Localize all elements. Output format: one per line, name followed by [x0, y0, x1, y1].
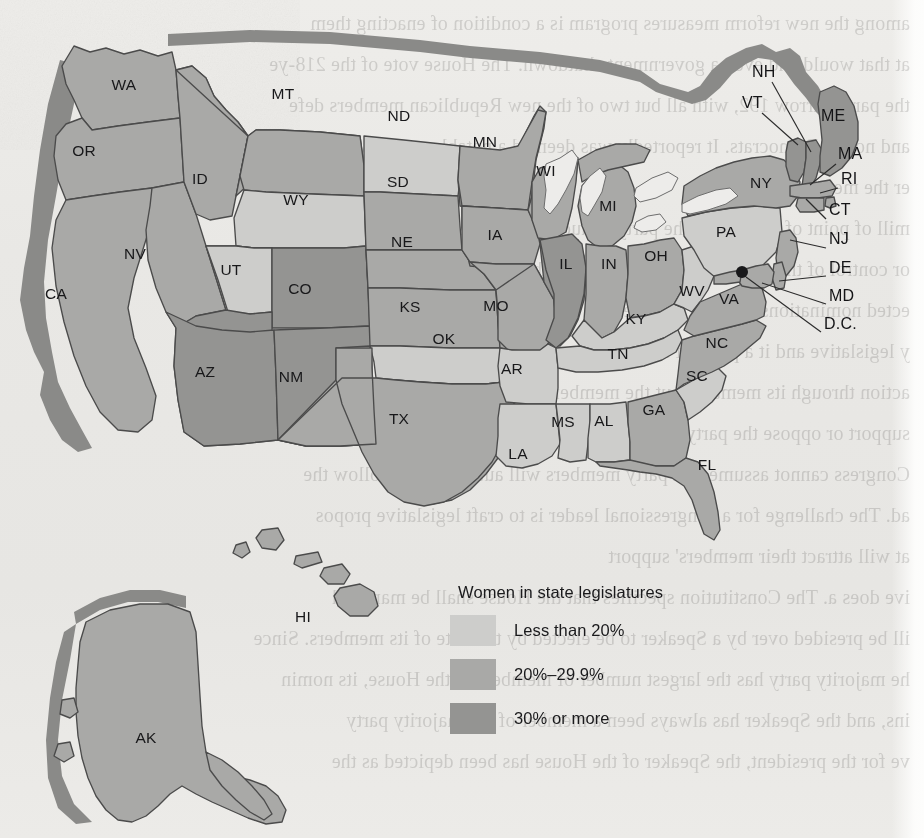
state-label-OK: OK [433, 330, 456, 347]
state-label-HI: HI [295, 608, 311, 625]
state-label-CO: CO [288, 280, 312, 297]
state-label-NM: NM [279, 368, 304, 385]
callout-label-D.C.: D.C. [824, 315, 857, 332]
hawaii-oahu [256, 528, 284, 550]
legend-row-lo: Less than 20% [450, 615, 750, 646]
state-CT [796, 198, 824, 212]
callout-label-NH: NH [752, 63, 776, 80]
state-AZ-fix [166, 312, 278, 446]
state-label-ND: ND [388, 107, 411, 124]
callout-label-RI: RI [841, 170, 857, 187]
state-label-OH: OH [644, 247, 668, 264]
state-label-WY: WY [283, 191, 308, 208]
hawaii-kauai [233, 542, 250, 558]
legend-label-lo: Less than 20% [514, 621, 624, 640]
callout-label-NJ: NJ [829, 230, 849, 247]
hawaii-maui [320, 564, 350, 584]
state-label-ID: ID [192, 170, 208, 187]
state-label-NC: NC [706, 334, 729, 351]
state-ND [364, 136, 460, 196]
state-label-AL: AL [594, 412, 614, 429]
callout-label-VT: VT [742, 94, 763, 111]
state-label-WV: WV [679, 282, 705, 299]
state-CA [52, 188, 156, 432]
legend-swatch-mid [450, 659, 496, 690]
state-label-OR: OR [72, 142, 96, 159]
hawaii-big-island [334, 584, 378, 616]
state-label-IN: IN [601, 255, 617, 272]
state-label-SC: SC [686, 367, 708, 384]
state-label-GA: GA [643, 401, 666, 418]
legend-rows: Less than 20%20%–29.9%30% or more [450, 615, 750, 734]
state-ME [818, 86, 858, 176]
state-MT-body [240, 130, 364, 196]
leader-line-MD [762, 283, 826, 304]
state-label-MO: MO [483, 297, 508, 314]
callout-label-DE: DE [829, 259, 852, 276]
state-label-VA: VA [719, 290, 739, 307]
state-label-TX: TX [389, 410, 410, 427]
state-label-PA: PA [716, 223, 736, 240]
state-label-LA: LA [508, 445, 528, 462]
callout-label-CT: CT [829, 201, 851, 218]
state-label-AK: AK [135, 729, 157, 746]
state-label-UT: UT [220, 261, 241, 278]
state-label-MN: MN [473, 133, 498, 150]
state-DE [772, 262, 786, 290]
alaska-inset [46, 590, 286, 824]
state-label-AR: AR [501, 360, 523, 377]
state-label-MS: MS [551, 413, 575, 430]
dc-marker-dot [736, 266, 748, 278]
map-legend: Women in state legislatures Less than 20… [450, 583, 750, 747]
state-label-FL: FL [698, 456, 717, 473]
state-label-IL: IL [559, 255, 573, 272]
legend-swatch-lo [450, 615, 496, 646]
state-label-IA: IA [487, 226, 503, 243]
legend-title: Women in state legislatures [458, 583, 750, 602]
state-label-WI: WI [536, 162, 555, 179]
state-label-MI: MI [599, 197, 617, 214]
state-label-NY: NY [750, 174, 772, 191]
state-SD [364, 192, 462, 250]
callout-label-MD: MD [829, 287, 854, 304]
state-label-CA: CA [45, 285, 67, 302]
state-AL [588, 402, 630, 462]
state-label-TN: TN [607, 345, 628, 362]
state-label-MT: MT [272, 85, 295, 102]
legend-row-mid: 20%–29.9% [450, 659, 750, 690]
state-label-SD: SD [387, 173, 409, 190]
state-label-KS: KS [399, 298, 420, 315]
state-label-AZ: AZ [195, 363, 215, 380]
legend-swatch-hi [450, 703, 496, 734]
hawaii-inset [233, 528, 378, 616]
legend-label-mid: 20%–29.9% [514, 665, 604, 684]
legend-label-hi: 30% or more [514, 709, 610, 728]
legend-row-hi: 30% or more [450, 703, 750, 734]
callout-label-ME: ME [821, 107, 845, 124]
state-CO [272, 246, 370, 328]
state-label-NE: NE [391, 233, 413, 250]
callout-label-MA: MA [838, 145, 863, 162]
state-label-NV: NV [124, 245, 146, 262]
state-label-KY: KY [625, 310, 646, 327]
state-label-WA: WA [112, 76, 137, 93]
hawaii-molokai [294, 552, 322, 568]
alaska-aleutian-1 [60, 698, 78, 718]
state-OK [370, 346, 504, 384]
